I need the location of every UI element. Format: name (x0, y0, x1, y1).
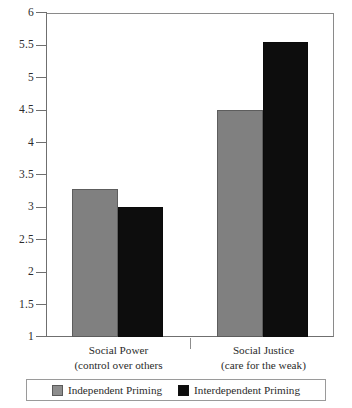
legend-label-independent: Independent Priming (68, 384, 162, 396)
bar (118, 207, 164, 337)
y-axis-tick-label: 3.5 (19, 169, 34, 181)
y-axis-tick-label: 6 (28, 7, 34, 19)
category-label-line2: (care for the weak) (184, 358, 344, 373)
category-label-line2: (control over others (39, 358, 199, 373)
y-axis-tick-label: 4 (28, 137, 34, 149)
legend-entry-independent: Independent Priming (52, 384, 162, 396)
gray-swatch-icon (52, 385, 63, 396)
y-axis-tick-label: 3 (28, 201, 34, 213)
y-axis-tick-label: 5 (28, 72, 34, 84)
category-label-line1: Social Justice (233, 344, 294, 356)
y-axis-tick-label: 1.5 (19, 299, 34, 311)
legend-entry-interdependent: Interdependent Priming (178, 384, 300, 396)
bar (263, 42, 309, 337)
y-axis-tick-label: 4.5 (19, 104, 34, 116)
y-axis-tick-label: 1 (28, 331, 34, 343)
y-axis-tick-label: 2.5 (19, 234, 34, 246)
y-axis-tick-label: 2 (28, 266, 34, 278)
y-axis-tick-label: 5.5 (19, 39, 34, 51)
plot-area (46, 13, 334, 337)
bar (217, 110, 263, 337)
black-swatch-icon (178, 385, 189, 396)
bar (72, 189, 118, 337)
x-axis-category-label: Social Power(control over others (39, 343, 199, 372)
chart-legend: Independent Priming Interdependent Primi… (26, 379, 326, 401)
x-axis-category-label: Social Justice(care for the weak) (184, 343, 344, 372)
bar-chart-figure: 65.554.543.532.521.51 Social Power(contr… (0, 0, 352, 408)
legend-label-interdependent: Interdependent Priming (194, 384, 300, 396)
category-label-line1: Social Power (89, 344, 148, 356)
